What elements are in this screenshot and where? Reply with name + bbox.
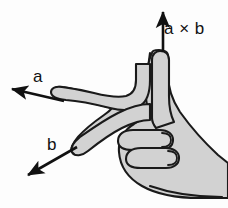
right-hand-rule-figure: a × b a b	[0, 0, 228, 208]
vector-b-label: b	[47, 136, 57, 153]
vector-a-label: a	[33, 68, 43, 85]
index-finger-path	[51, 64, 150, 110]
vector-a-cross-b-label: a × b	[164, 20, 205, 37]
hand-silhouette	[51, 50, 228, 198]
